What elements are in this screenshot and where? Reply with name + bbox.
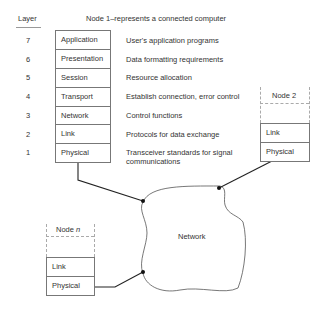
noden-dashed-divider: [46, 236, 94, 237]
node1-layer-transport: Transport: [55, 87, 111, 107]
layer-description: Control functions: [126, 112, 182, 120]
layer-description: Data formatting requirements: [126, 56, 223, 64]
noden-dashed-left: [46, 224, 47, 257]
junction-dot: [217, 186, 221, 190]
noden-dashed-right: [94, 224, 95, 257]
layer-number: 6: [18, 56, 38, 64]
node1-layer-session: Session: [55, 68, 111, 88]
layer-description-line2: communications: [126, 158, 180, 166]
link-node2: [219, 161, 272, 188]
layer-number: 2: [18, 131, 38, 139]
node1-layer-application: Application: [55, 30, 111, 50]
layer-number: 4: [18, 93, 38, 101]
node2-dashed-right: [309, 87, 310, 123]
layer-number: 3: [18, 112, 38, 120]
layer-column-header: Layer: [18, 15, 37, 23]
node2-layer-physical: Physical: [260, 142, 310, 162]
network-label: Network: [178, 233, 206, 241]
noden-title-prefix: Node: [56, 225, 76, 234]
node2-layer-link: Link: [260, 123, 310, 143]
noden-layer-physical: Physical: [46, 276, 95, 296]
noden-layer-link: Link: [46, 257, 95, 277]
layer-number: 7: [18, 37, 38, 45]
layer-number: 1: [18, 149, 38, 157]
node1-layer-physical: Physical: [55, 143, 111, 163]
layer-description: Establish connection, error control: [126, 93, 239, 101]
link-node1: [78, 162, 143, 201]
node2-dashed-divider: [260, 103, 309, 104]
node1-layer-presentation: Presentation: [55, 49, 111, 69]
layer-description: Resource allocation: [126, 74, 192, 82]
header-underline: [16, 27, 41, 28]
node1-layer-network: Network: [55, 106, 111, 126]
node1-layer-link: Link: [55, 124, 111, 144]
noden-title-variable: n: [76, 225, 80, 234]
layer-number: 5: [18, 74, 38, 82]
junction-dot: [141, 199, 145, 203]
layer-description: Protocols for data exchange: [126, 131, 219, 139]
layer-description: User's application programs: [126, 37, 219, 45]
junction-dot: [141, 270, 145, 274]
node2-dashed-left: [260, 87, 261, 123]
noden-title: Node n: [56, 226, 80, 234]
node2-title: Node 2: [272, 92, 296, 100]
layer-description: Transceiver standards for signal: [126, 149, 232, 157]
link-noden: [94, 272, 143, 287]
node1-title: Node 1–represents a connected computer: [86, 15, 226, 23]
